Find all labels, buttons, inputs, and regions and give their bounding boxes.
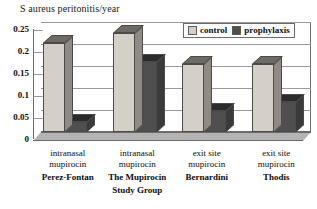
legend-item-prophylaxis[interactable]: prophylaxis (232, 25, 289, 35)
x-label-source: Bernardini (168, 172, 246, 183)
x-label-intervention: intranasal (99, 148, 177, 159)
bar-face (43, 43, 65, 132)
legend-swatch-control-icon (188, 26, 197, 35)
bar-side (135, 26, 143, 132)
plot-wrapper: 0.250.20.150.10.050 (0, 20, 317, 145)
legend-swatch-prophylaxis-icon (232, 26, 241, 35)
legend-label-prophylaxis: prophylaxis (244, 25, 289, 35)
bar-side (157, 55, 165, 132)
x-axis-labels: intranasalmupirocinPerez-Fontanintranasa… (33, 148, 311, 208)
legend-label-control: control (200, 25, 227, 35)
bar-side (274, 57, 282, 132)
bar-face (113, 33, 135, 132)
bar-control-1[interactable] (43, 43, 65, 132)
y-tick-label: 0.1 (18, 90, 29, 100)
legend-item-control[interactable]: control (188, 25, 227, 35)
x-axis-group-label-3: exit sitemupirocinBernardini (168, 148, 246, 183)
bar-control-2[interactable] (113, 33, 135, 132)
bars-container (33, 22, 311, 141)
x-axis-group-label-2: intranasalmupirocinThe MupirocinStudy Gr… (99, 148, 177, 196)
x-label-intervention: mupirocin (99, 159, 177, 170)
chart-title: S aureus peritonitis/year (20, 3, 120, 14)
x-label-source: The Mupirocin (99, 172, 177, 183)
x-label-intervention: exit site (168, 148, 246, 159)
y-axis: 0.250.20.150.10.050 (0, 20, 30, 145)
bar-control-3[interactable] (182, 64, 204, 132)
bar-side (204, 57, 212, 132)
bar-face (182, 64, 204, 132)
x-label-source: Study Group (99, 185, 177, 196)
y-tick-label: 0.25 (13, 24, 29, 34)
x-axis-group-label-1: intranasalmupirocinPerez-Fontan (29, 148, 107, 183)
x-label-intervention: mupirocin (238, 159, 316, 170)
chart-legend: control prophylaxis (183, 23, 295, 38)
y-tick-label: 0 (25, 134, 30, 144)
x-label-intervention: intranasal (29, 148, 107, 159)
x-label-intervention: mupirocin (29, 159, 107, 170)
x-label-source: Thodis (238, 172, 316, 183)
bar-face (252, 64, 274, 132)
x-label-intervention: mupirocin (168, 159, 246, 170)
y-tick-label: 0.05 (13, 112, 29, 122)
x-axis-group-label-4: exit sitemupirocinThodis (238, 148, 316, 183)
bar-control-4[interactable] (252, 64, 274, 132)
x-label-intervention: exit site (238, 148, 316, 159)
x-label-source: Perez-Fontan (29, 172, 107, 183)
y-tick-label: 0.2 (18, 46, 29, 56)
y-tick-label: 0.15 (13, 68, 29, 78)
bar-side (65, 36, 73, 132)
